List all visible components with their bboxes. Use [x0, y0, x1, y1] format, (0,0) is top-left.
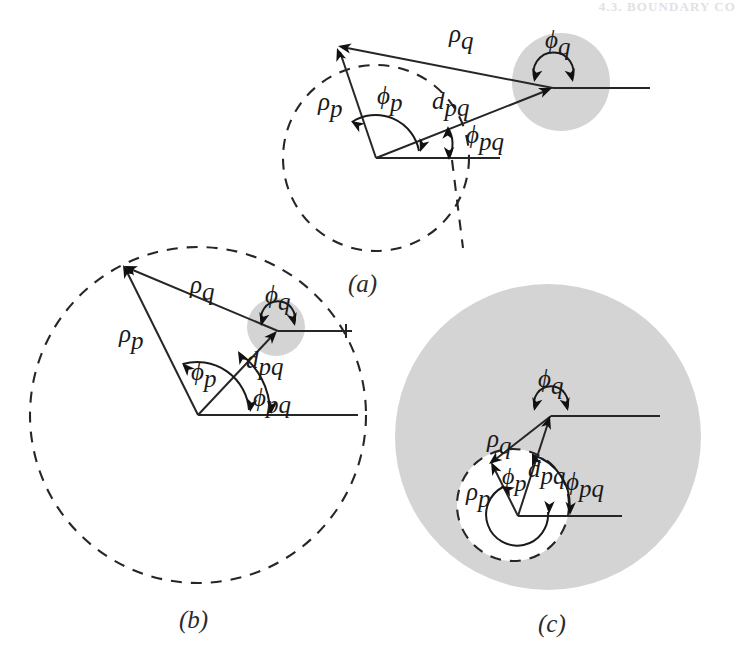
panel-a-d-pq-label: dpq: [432, 87, 470, 121]
panel-a: ρq ϕq ρp ϕp dpq ϕpq (a): [283, 20, 650, 298]
panel-b-caption: (b): [179, 606, 208, 634]
panel-a-rho-p-label: ρp: [317, 88, 343, 122]
figure-root: 4.3. BOUNDARY CO: [0, 0, 744, 652]
panel-b-rho-q-label: ρq: [189, 271, 215, 305]
panel-a-phi-p-label: ϕp: [377, 82, 402, 116]
panel-a-phi-pq-guide: [452, 160, 463, 248]
panel-a-caption: (a): [348, 270, 377, 298]
panel-c: ϕq ρq dpq ϕp ρp ϕpq (c): [395, 284, 701, 638]
panel-b-phi-pq-label: ϕpq: [253, 384, 291, 418]
panel-a-rho-q-label: ρq: [448, 20, 474, 54]
panel-a-rho-p-vector: [340, 52, 376, 158]
panel-c-caption: (c): [538, 610, 566, 638]
figure-svg: ρq ϕq ρp ϕp dpq ϕpq (a): [0, 0, 744, 652]
panel-a-phi-pq-label: ϕpq: [466, 121, 504, 155]
panel-b-phi-p-label: ϕp: [191, 358, 216, 392]
panel-b: ρq ϕq ρp ϕp dpq ϕpq (b): [30, 247, 366, 634]
panel-b-rho-p-label: ρp: [118, 320, 144, 354]
